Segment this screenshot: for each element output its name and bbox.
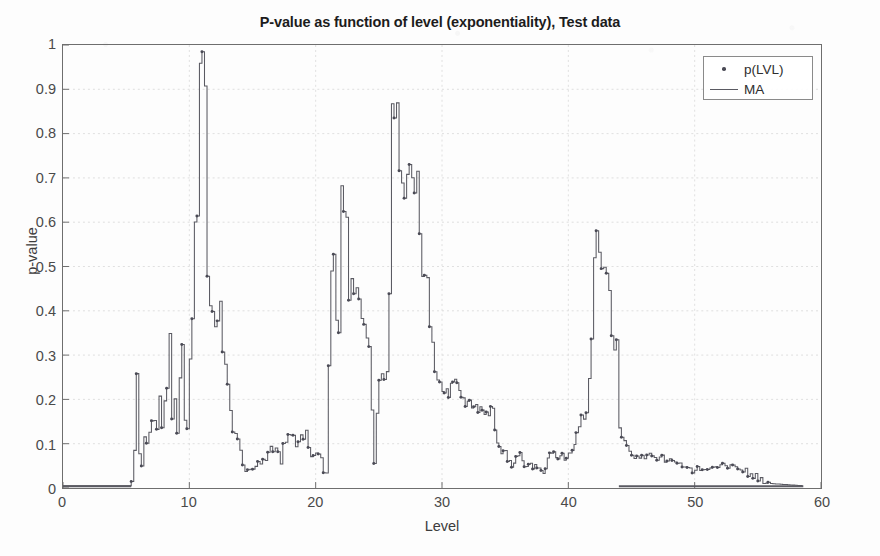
y-axis-tick-labels: 00.10.20.30.40.50.60.70.80.91	[0, 44, 56, 489]
x-tick-label: 50	[665, 494, 725, 510]
y-tick-label: 0.2	[2, 392, 56, 408]
y-tick-label: 0.7	[2, 170, 56, 186]
legend-label-ma: MA	[744, 82, 764, 97]
line-sample-icon	[704, 89, 744, 90]
y-tick-label: 0.9	[2, 81, 56, 97]
ma-line	[63, 52, 802, 486]
x-tick-label: 60	[792, 494, 852, 510]
x-tick-label: 20	[285, 494, 345, 510]
chart-legend: p(LVL) MA	[703, 56, 813, 100]
chart-figure: P-value as function of level (exponentia…	[0, 0, 880, 556]
y-tick-label: 0.8	[2, 125, 56, 141]
x-axis-tick-labels: 0102030405060	[62, 494, 822, 516]
y-tick-label: 0.1	[2, 437, 56, 453]
legend-label-p-lvl: p(LVL)	[744, 62, 784, 77]
p-lvl-markers	[130, 50, 770, 484]
legend-item-ma[interactable]: MA	[704, 79, 812, 99]
scatter-marker-icon	[704, 67, 744, 71]
legend-item-p-lvl[interactable]: p(LVL)	[704, 59, 812, 79]
y-tick-label: 0.5	[2, 259, 56, 275]
x-tick-label: 30	[412, 494, 472, 510]
x-tick-label: 0	[32, 494, 92, 510]
y-tick-label: 1	[2, 36, 56, 52]
y-tick-label: 0.3	[2, 348, 56, 364]
x-tick-label: 40	[539, 494, 599, 510]
plot-area	[62, 44, 822, 489]
y-tick-label: 0.4	[2, 303, 56, 319]
data-series-layer	[63, 45, 821, 488]
x-axis-label: Level	[62, 518, 822, 534]
page-title: P-value as function of level (exponentia…	[0, 14, 880, 30]
y-tick-label: 0.6	[2, 214, 56, 230]
x-tick-label: 10	[159, 494, 219, 510]
